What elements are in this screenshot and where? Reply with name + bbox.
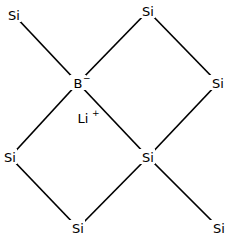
bonds-layer xyxy=(10,11,219,228)
bond-si4-si6 xyxy=(10,157,78,228)
atom-si-si4: Si xyxy=(0,149,17,165)
atom-b-b1: B− xyxy=(70,73,91,91)
atoms-layer: SiSiB−SiLi+SiSiSiSi xyxy=(0,3,226,233)
charge-superscript: + xyxy=(92,108,100,118)
atom-li-li1: Li+ xyxy=(71,108,100,126)
atom-label: Si xyxy=(213,221,225,233)
atom-label: Si xyxy=(212,76,224,91)
atom-label: Si xyxy=(142,4,154,19)
atom-si-si5: Si xyxy=(137,149,155,165)
atom-si-si3: Si xyxy=(207,75,225,91)
bond-si2-si3 xyxy=(148,11,218,83)
atom-label: Si xyxy=(8,8,20,23)
atom-label: B xyxy=(74,76,83,91)
atom-si-si1: Si xyxy=(3,7,21,23)
bond-si3-si5 xyxy=(148,83,218,157)
molecule-diagram: SiSiB−SiLi+SiSiSiSi xyxy=(0,0,228,233)
bond-b1-si4 xyxy=(10,83,78,157)
bond-si5-si7 xyxy=(148,157,219,228)
atom-label: Li xyxy=(78,111,89,126)
atom-si-si2: Si xyxy=(137,3,155,19)
atom-label: Si xyxy=(72,221,84,233)
bond-si1-b1 xyxy=(14,15,78,83)
atom-label: Si xyxy=(142,150,154,165)
charge-superscript: − xyxy=(83,73,91,83)
atom-si-si7: Si xyxy=(208,220,226,233)
atom-si-si6: Si xyxy=(67,220,85,233)
bond-si6-si5 xyxy=(78,157,148,228)
atom-label: Si xyxy=(4,150,16,165)
